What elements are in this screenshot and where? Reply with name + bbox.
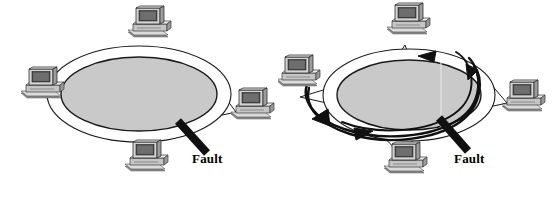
fault-label: Fault <box>454 151 485 166</box>
ring-diagram-wraparound: Fault <box>278 0 556 200</box>
figure-canvas: Fault <box>0 0 556 200</box>
workstation-bottom <box>384 142 427 173</box>
workstation-top <box>387 3 430 34</box>
workstation-right <box>502 80 545 111</box>
ring-inner-ellipse <box>61 57 217 131</box>
diagram-panel-right: Fault <box>278 0 556 200</box>
workstation-top <box>128 6 171 37</box>
fault-label: Fault <box>192 151 223 166</box>
workstation-left <box>278 55 320 86</box>
workstation-right <box>231 88 274 119</box>
workstation-bottom <box>125 140 168 171</box>
diagram-panel-left: Fault <box>0 0 278 200</box>
ring-diagram-fault: Fault <box>0 0 278 200</box>
